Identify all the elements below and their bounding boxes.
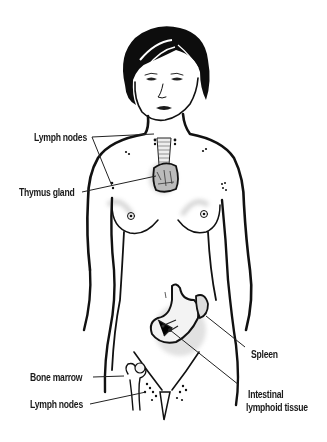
label-bone-marrow: Bone marrow xyxy=(30,371,82,383)
femur-bone xyxy=(126,363,146,410)
thymus-gland-shape xyxy=(153,163,178,191)
label-thymus-gland: Thymus gland xyxy=(19,186,74,198)
head xyxy=(123,26,210,120)
label-lymph-nodes-lower: Lymph nodes xyxy=(30,398,83,410)
label-lymphoid-tissue: lymphoid tissue xyxy=(246,401,308,413)
label-lymph-nodes-upper: Lymph nodes xyxy=(34,131,87,143)
label-spleen: Spleen xyxy=(251,348,278,360)
label-intestinal: Intestinal xyxy=(248,388,283,400)
spleen xyxy=(196,295,208,318)
